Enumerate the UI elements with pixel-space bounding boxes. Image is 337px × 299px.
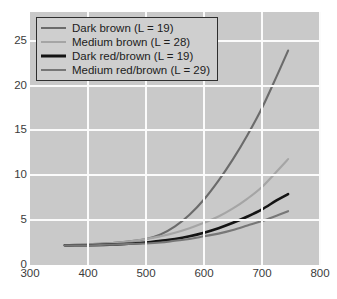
legend-item-label: Medium red/brown (L = 29) [72, 63, 210, 77]
gridline-horizontal [30, 85, 320, 87]
y-axis-tick-label: 20 [1, 80, 27, 92]
legend-line-swatch-icon [41, 21, 66, 35]
x-axis-tick-labels: 300400500600700800 [30, 268, 320, 286]
y-axis-tick-labels: 0510152025 [0, 12, 27, 265]
legend-item-2: Dark red/brown (L = 19) [41, 49, 212, 63]
chart-legend: Dark brown (L = 19)Medium brown (L = 28)… [36, 17, 218, 81]
legend-line-swatch-icon [41, 63, 66, 77]
x-axis-tick-label: 600 [194, 268, 213, 280]
series-line-1 [65, 159, 288, 245]
line-chart-figure: 0510152025 300400500600700800 Dark brown… [0, 0, 337, 299]
x-axis-tick-label: 700 [252, 268, 271, 280]
gridline-horizontal [30, 219, 320, 221]
legend-item-1: Medium brown (L = 28) [41, 35, 212, 49]
legend-item-3: Medium red/brown (L = 29) [41, 63, 212, 77]
series-line-3 [65, 211, 288, 245]
legend-item-label: Dark red/brown (L = 19) [72, 49, 193, 63]
gridline-horizontal [30, 174, 320, 176]
y-axis-tick-label: 15 [1, 124, 27, 136]
gridline-vertical [261, 12, 263, 265]
gridline-horizontal [30, 129, 320, 131]
y-axis-tick-label: 25 [1, 35, 27, 47]
x-axis-tick-label: 300 [20, 268, 39, 280]
gridline-vertical [319, 12, 321, 265]
legend-item-label: Dark brown (L = 19) [72, 21, 174, 35]
legend-line-swatch-icon [41, 49, 66, 63]
legend-item-label: Medium brown (L = 28) [72, 35, 190, 49]
x-axis-tick-label: 800 [310, 268, 329, 280]
x-axis-tick-label: 500 [136, 268, 155, 280]
legend-item-0: Dark brown (L = 19) [41, 21, 212, 35]
y-axis-tick-label: 10 [1, 169, 27, 181]
y-axis-tick-label: 5 [1, 214, 27, 226]
x-axis-tick-label: 400 [78, 268, 97, 280]
legend-line-swatch-icon [41, 35, 66, 49]
